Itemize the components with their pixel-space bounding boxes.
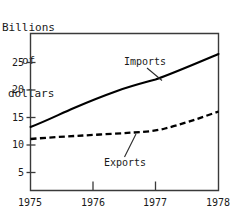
- y-tick-label-5: 5: [2, 168, 24, 178]
- exports-leader-line: [125, 134, 137, 157]
- series-label-imports: Imports: [124, 57, 166, 67]
- x-tick-label-1977: 1977: [137, 198, 173, 208]
- x-tick-label-1975: 1975: [12, 198, 48, 208]
- x-tick-label-1976: 1976: [75, 198, 111, 208]
- y-tick-label-20: 20: [2, 85, 24, 95]
- y-tick-label-15: 15: [2, 113, 24, 123]
- x-tick-label-1978: 1978: [200, 198, 236, 208]
- plot-area: [0, 0, 237, 217]
- y-tick-label-25: 25: [2, 58, 24, 68]
- y-tick-label-10: 10: [2, 140, 24, 150]
- series-label-exports: Exports: [104, 158, 146, 168]
- imports-leader-line: [147, 68, 162, 81]
- chart-container: Billions of dollars 25 20 15 10 5 1975 1…: [0, 0, 237, 217]
